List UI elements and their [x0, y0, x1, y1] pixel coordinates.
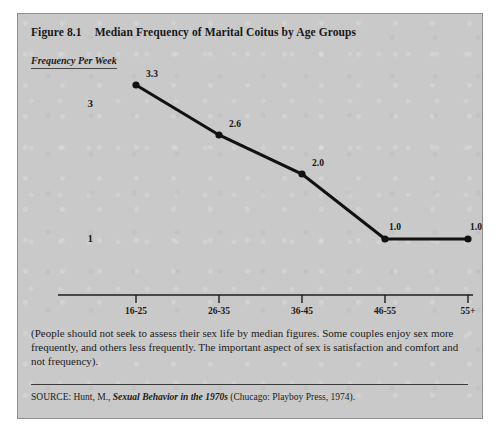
- point-label-16-25: 3.3: [146, 69, 158, 79]
- x-tick-label-16-25: 16-25: [106, 306, 166, 316]
- y-tick-label-3: 3: [73, 97, 93, 109]
- data-markers: [132, 81, 471, 242]
- figure-panel: Figure 8.1Median Frequency of Marital Co…: [17, 13, 483, 419]
- source-divider: [31, 384, 468, 385]
- source-suffix: (Chucago: Playboy Press, 1974).: [228, 392, 355, 402]
- x-tick-label-36-45: 36-45: [272, 306, 332, 316]
- source-prefix: SOURCE: Hunt, M.,: [31, 392, 113, 402]
- point-label-46-55: 1.0: [389, 222, 401, 232]
- data-line: [136, 85, 468, 239]
- source-title: Sexual Behavior in the 1970s: [113, 392, 228, 402]
- x-tick-label-55plus: 55+: [438, 306, 483, 316]
- y-tick-label-1: 1: [73, 232, 93, 244]
- point-label-55plus: 1.0: [470, 222, 482, 232]
- x-axis-ticks: [136, 295, 468, 303]
- source-line: SOURCE: Hunt, M., Sexual Behavior in the…: [31, 392, 468, 402]
- figure-note: (People should not seek to assess their …: [31, 326, 468, 369]
- x-tick-label-26-35: 26-35: [189, 306, 249, 316]
- point-label-36-45: 2.0: [312, 158, 324, 168]
- x-tick-label-46-55: 46-55: [355, 306, 415, 316]
- point-label-26-35: 2.6: [229, 119, 241, 129]
